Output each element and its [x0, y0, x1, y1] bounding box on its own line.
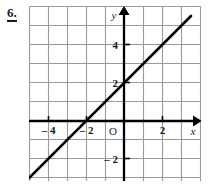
problem-number-label: 6.: [7, 6, 17, 22]
y-tick-label--2: – 2: [103, 153, 118, 165]
worksheet-graph-figure: 6.: [0, 0, 211, 189]
x-tick-label-2: 2: [160, 124, 166, 136]
coordinate-grid-graph: – 4 – 2 2 4 2 – 2 O y x: [29, 6, 201, 181]
origin-label: O: [109, 125, 117, 137]
graph-svg: – 4 – 2 2 4 2 – 2 O y x: [29, 6, 201, 181]
y-tick-label-4: 4: [113, 39, 119, 51]
y-axis-label: y: [111, 9, 117, 21]
x-tick-label--4: – 4: [41, 124, 56, 136]
y-tick-label-2: 2: [113, 77, 119, 89]
x-tick-label--2: – 2: [79, 124, 94, 136]
x-axis-label: x: [190, 125, 196, 137]
